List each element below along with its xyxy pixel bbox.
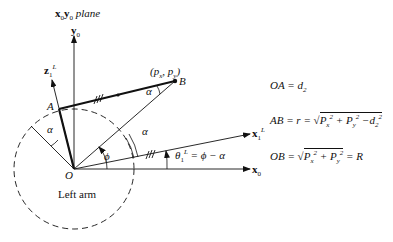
alpha-arc-left — [51, 140, 58, 146]
o-p2: P — [330, 150, 337, 162]
equation-OB: OB = √Px2 + Py2 = R — [270, 150, 363, 162]
theta-arc — [166, 151, 167, 169]
x1L-sub: 1 — [258, 134, 262, 142]
eq-OA-rhs-sub: 2 — [303, 86, 307, 94]
r-p2-sub: y — [353, 121, 356, 129]
theta-sup: L — [184, 148, 188, 156]
eq-OB-tail: = R — [346, 150, 363, 162]
eq-AB-radicand: Px2 + Py2 −d22 — [320, 112, 382, 126]
phi-label: ϕ — [104, 151, 110, 162]
o-p2-sup: 2 — [340, 149, 344, 157]
segment-OA — [59, 109, 74, 169]
theta-rhs: = ϕ − α — [191, 149, 226, 161]
plane-y-sub: 0 — [70, 14, 74, 22]
z1L-label: z1L — [44, 65, 56, 76]
r-p1-sub: x — [326, 121, 329, 129]
alpha-arc-B — [157, 86, 160, 94]
r-plus: + — [333, 114, 346, 126]
eq-OB-radicand: Px2 + Py2 — [304, 148, 344, 162]
equation-OA: OA = d2 — [270, 79, 306, 91]
by-sub: y — [173, 72, 176, 80]
z1L-sup: L — [52, 63, 56, 71]
o-p1-sub: x — [310, 157, 313, 165]
o-plus: + — [317, 150, 330, 162]
left-arm-label: Left arm — [58, 189, 96, 200]
point-O-label: O — [65, 170, 73, 181]
alpha-label-B: α — [146, 86, 152, 97]
point-A-label: A — [47, 101, 54, 112]
r-d-sup: 2 — [378, 113, 382, 121]
eq-OB-lhs: OB = — [270, 150, 295, 162]
x0-sub: 0 — [258, 170, 262, 178]
r-p2: P — [346, 114, 353, 126]
plane-label: x0y0 plane — [55, 8, 100, 19]
x1L-label: x1L — [252, 128, 265, 139]
plane-word: plane — [76, 7, 100, 19]
eq-AB-lhs: AB = r = — [270, 114, 311, 126]
y0-sub: 0 — [77, 31, 81, 39]
mid-dot — [116, 93, 119, 96]
theta-label: θ1L = ϕ − α — [175, 150, 225, 161]
r-d-sub: 2 — [375, 121, 379, 129]
x0-label: x0 — [252, 164, 261, 175]
point-B-label: B — [179, 76, 186, 87]
equation-AB: AB = r = √Px2 + Py2 −d22 — [270, 114, 382, 126]
r-minus-d: −d — [359, 114, 375, 126]
alpha-label-left: α — [47, 124, 53, 135]
point-B-coords: (px, py) — [150, 66, 180, 77]
x1L-sup: L — [261, 126, 265, 134]
z1L-sub: 1 — [49, 71, 53, 79]
o-p2-sub: y — [337, 157, 340, 165]
parallel-marks-x1L — [146, 150, 155, 159]
eq-OA-rhs: = d — [287, 79, 303, 91]
bx-sub: x — [159, 72, 162, 80]
theta-sub: 1 — [180, 156, 184, 164]
eq-OA-lhs: OA — [270, 79, 284, 91]
y0-label: y0 — [71, 25, 80, 36]
alpha-label-mid: α — [142, 126, 148, 137]
